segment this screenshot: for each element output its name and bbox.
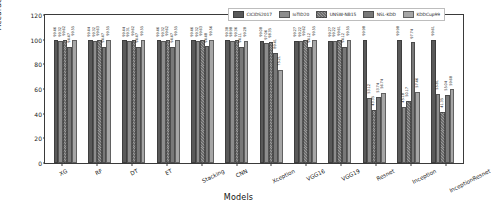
x-tick-label-rf: RF	[94, 168, 103, 177]
plot-area: 020406080100120 99.4699.3299.6294.4799.5…	[44, 14, 464, 164]
legend-label: KDDCup99	[416, 12, 439, 17]
bar-value-label: 99.55	[347, 26, 351, 36]
x-tick-label-vgg19: VGG19	[340, 168, 360, 182]
bar-cnn-kddcup99: 99.28	[244, 15, 249, 163]
bar-value-label: 98.35	[269, 28, 273, 38]
bar-value-label: 99.98	[363, 26, 367, 36]
legend-item-kddcup99[interactable]: KDDCup99	[403, 11, 440, 18]
y-axis-title: Accuracy	[0, 0, 3, 52]
bar-rect	[106, 40, 111, 163]
bar-value-label: 99.55	[141, 26, 145, 36]
bar-group-stacking: 99.4699.3299.6394.4899.56	[185, 15, 219, 163]
bar-rect	[415, 92, 420, 163]
bar-rect	[278, 70, 283, 163]
bar-value-label: 55.81	[436, 80, 440, 90]
x-tick-label-resnet: Resnet	[375, 168, 395, 182]
legend-swatch-icon	[279, 11, 290, 18]
legend-item-unsw-nb15[interactable]: UNSW-NB15	[316, 11, 356, 18]
bar-value-label: 57.46	[415, 78, 419, 88]
bar-value-label: 99.55	[175, 26, 179, 36]
bar-rect	[141, 40, 146, 163]
x-axis-title: Models	[0, 193, 477, 202]
bar-stacking-kddcup99: 99.56	[209, 15, 214, 163]
bar-group-vgg16: 99.2799.2299.6294.1299.55	[288, 15, 322, 163]
bar-value-label: 99.28	[244, 27, 248, 37]
bar-value-label: 41.35	[441, 98, 445, 108]
bar-value-label: 97.74	[411, 29, 415, 39]
legend-item-iotid20[interactable]: IoTID20	[279, 11, 309, 18]
bar-rect	[72, 40, 77, 163]
legend-label: CICIDS2017	[247, 12, 273, 17]
bar-value-label: 75.21	[278, 56, 282, 66]
bar-value-label: 99.55	[72, 26, 76, 36]
bar-value-label: 99.55	[106, 26, 110, 36]
bar-group-inceptionresnet: 99.6155.8141.3555.0459.68	[426, 15, 460, 163]
bar-rf-kddcup99: 99.55	[106, 15, 111, 163]
x-tick-label-cnn: CNN	[234, 168, 248, 179]
bar-value-label: 99.55	[312, 26, 316, 36]
bar-group-vgg19: 99.2799.2299.6194.1299.55	[323, 15, 357, 163]
bar-groups: 99.4699.3299.6294.4799.5599.4499.3299.63…	[45, 15, 463, 163]
bar-value-label: 59.68	[450, 76, 454, 86]
x-tick-label-xception: Xception	[271, 168, 296, 185]
legend-label: IoTID20	[293, 12, 310, 17]
bar-group-et: 99.4699.3299.6294.4799.55	[151, 15, 185, 163]
x-axis-tick-labels: XGRFDTETStackingCNNXceptionVGG16VGG19Res…	[44, 166, 464, 192]
bar-inceptionresnet-kddcup99: 59.68	[450, 15, 455, 163]
bar-group-rf: 99.4499.3299.6394.4799.55	[82, 15, 116, 163]
bar-rect	[381, 93, 386, 163]
bar-group-xception: 99.0897.0698.3589.4175.21	[254, 15, 288, 163]
bar-group-resnet: 99.9853.1243.3553.7456.74	[357, 15, 391, 163]
bar-value-label: 99.98	[397, 26, 401, 36]
bar-xception-kddcup99: 75.21	[278, 15, 283, 163]
legend-swatch-icon	[233, 11, 244, 18]
bar-rect	[347, 40, 352, 163]
bar-group-inception: 99.9845.1850.1797.7457.46	[391, 15, 425, 163]
bar-et-kddcup99: 99.55	[175, 15, 180, 163]
bar-vgg19-kddcup99: 99.55	[347, 15, 352, 163]
bar-inception-kddcup99: 57.46	[415, 15, 420, 163]
legend-swatch-icon	[316, 11, 327, 18]
legend-item-cicids2017[interactable]: CICIDS2017	[233, 11, 272, 18]
bar-xg-kddcup99: 99.55	[72, 15, 77, 163]
legend-swatch-icon	[363, 11, 374, 18]
x-tick-label-stacking: Stacking	[201, 168, 225, 184]
bar-group-dt: 99.4499.3199.6294.4799.55	[117, 15, 151, 163]
bar-value-label: 99.61	[431, 26, 435, 36]
bar-group-cnn: 99.3898.9899.3694.1199.28	[220, 15, 254, 163]
legend-item-nsl-kdd[interactable]: NSL-KDD	[363, 11, 396, 18]
bar-rect	[175, 40, 180, 163]
chart-legend: CICIDS2017IoTID20UNSW-NB15NSL-KDDKDDCup9…	[228, 8, 445, 21]
bar-group-xg: 99.4699.3299.6294.4799.55	[48, 15, 82, 163]
bar-value-label: 53.12	[367, 84, 371, 94]
bar-dt-kddcup99: 99.55	[141, 15, 146, 163]
bar-value-label: 43.35	[372, 96, 376, 106]
x-tick-label-inceptionresnet: InceptionResnet	[448, 168, 491, 194]
x-tick-label-vgg16: VGG16	[305, 168, 325, 182]
bar-vgg16-kddcup99: 99.55	[312, 15, 317, 163]
x-tick-label-dt: DT	[129, 168, 139, 177]
bar-value-label: 99.56	[209, 26, 213, 36]
bar-rect	[312, 40, 317, 163]
x-tick-label-inception: Inception	[411, 168, 437, 185]
bar-value-label: 89.41	[274, 39, 278, 49]
bar-resnet-kddcup99: 56.74	[381, 15, 386, 163]
x-tick-label-et: ET	[164, 168, 173, 177]
bar-rect	[209, 40, 214, 163]
bar-value-label: 50.17	[406, 87, 410, 97]
bar-rect	[450, 89, 455, 163]
legend-label: UNSW-NB15	[330, 12, 356, 17]
legend-label: NSL-KDD	[377, 12, 396, 17]
bar-value-label: 56.74	[381, 79, 385, 89]
bar-rect	[244, 41, 249, 163]
x-tick-label-xg: XG	[59, 168, 69, 177]
legend-swatch-icon	[403, 11, 414, 18]
